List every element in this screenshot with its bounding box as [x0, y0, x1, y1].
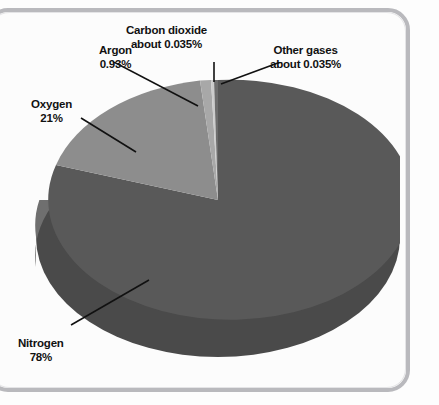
slice-label-nitrogen-name: Nitrogen [18, 337, 64, 349]
slice-label-other-gases: Other gases about 0.035% [270, 44, 341, 71]
slice-label-oxygen-value: 21% [31, 112, 72, 126]
slice-label-argon-name: Argon [99, 44, 132, 56]
slice-label-nitrogen: Nitrogen 78% [18, 337, 64, 364]
slice-label-carbon-dioxide-name: Carbon dioxide [126, 24, 207, 36]
slice-label-argon: Argon 0.93% [99, 44, 132, 71]
pie-chart-svg [30, 62, 400, 362]
chart-page: Carbon dioxide about 0.035% Other gases … [0, 0, 439, 405]
slice-label-argon-value: 0.93% [99, 58, 132, 72]
slice-label-oxygen: Oxygen 21% [31, 98, 72, 125]
pie-chart [30, 62, 400, 362]
slice-label-other-gases-value: about 0.035% [270, 58, 341, 72]
slice-label-nitrogen-value: 78% [18, 351, 64, 365]
slice-label-carbon-dioxide-value: about 0.035% [126, 38, 207, 52]
slice-label-carbon-dioxide: Carbon dioxide about 0.035% [126, 24, 207, 51]
pie-top-face [48, 80, 400, 320]
slice-label-oxygen-name: Oxygen [31, 98, 72, 110]
slice-label-other-gases-name: Other gases [273, 44, 337, 56]
